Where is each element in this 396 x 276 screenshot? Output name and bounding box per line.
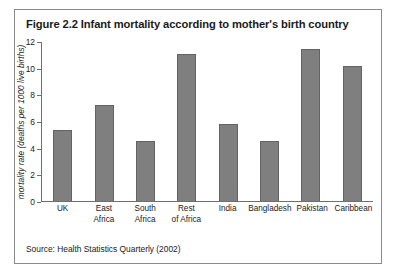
bar-slot [125,42,166,201]
y-axis-tick-mark [37,69,41,70]
y-axis-tick-label: 12 [26,37,35,47]
y-axis-tick-mark [37,202,41,203]
x-axis-label-line: Rest [166,204,207,215]
x-axis-label: Restof Africa [166,204,207,225]
bar-slot [83,42,124,201]
source-note: Source: Health Statistics Quarterly (200… [26,244,181,254]
x-axis-label-line: South [125,204,166,215]
y-axis-title: mortality rate (deaths per 1000 live bir… [16,45,26,200]
x-axis-label: Pakistan [292,204,333,225]
x-axis-label-line: Pakistan [292,204,333,215]
y-axis-tick-mark [37,42,41,43]
bar-slot [332,42,373,201]
x-axis-label-line: of Africa [166,215,207,226]
x-axis-label: Bangladesh [248,204,291,225]
bar [260,141,279,201]
bar-slot [166,42,207,201]
x-axis-label-line: Bangladesh [248,204,291,215]
bar-slot [208,42,249,201]
x-axis-label-line: Africa [125,215,166,226]
x-axis-labels: UKEastAfricaSouthAfricaRestof AfricaIndi… [42,204,374,225]
x-axis-label: SouthAfrica [125,204,166,225]
y-axis-tick-label: 8 [30,90,35,100]
bar [343,66,362,201]
y-axis-tick-label: 6 [30,117,35,127]
y-axis-tick-label: 10 [26,64,35,74]
y-axis-tick-label: 0 [30,197,35,207]
bar [53,130,72,201]
bar [177,54,196,201]
y-axis-tick-mark [37,175,41,176]
bar-slot [42,42,83,201]
figure-title: Figure 2.2 Infant mortality according to… [26,18,349,30]
x-axis-label-line: Caribbean [333,204,374,215]
y-axis-tick-label: 2 [30,170,35,180]
y-axis-tick-mark [37,122,41,123]
figure-panel: Figure 2.2 Infant mortality according to… [14,9,382,264]
x-axis-label-line: India [207,204,248,215]
bar [219,124,238,201]
x-axis-label: Caribbean [333,204,374,225]
x-axis-label: India [207,204,248,225]
x-axis-line [41,201,373,202]
x-axis-label-line: East [83,204,124,215]
y-axis-tick-mark [37,149,41,150]
bar [301,49,320,201]
bar [136,141,155,201]
bar-slot [290,42,331,201]
chart-plot-area: mortality rate (deaths per 1000 live bir… [41,42,373,202]
x-axis-label-line: Africa [83,215,124,226]
bar-series [42,42,373,201]
bar-slot [249,42,290,201]
x-axis-label-line: UK [42,204,83,215]
x-axis-label: EastAfrica [83,204,124,225]
y-axis-tick-label: 4 [30,144,35,154]
y-axis-tick-mark [37,95,41,96]
bar [95,105,114,201]
x-axis-label: UK [42,204,83,225]
